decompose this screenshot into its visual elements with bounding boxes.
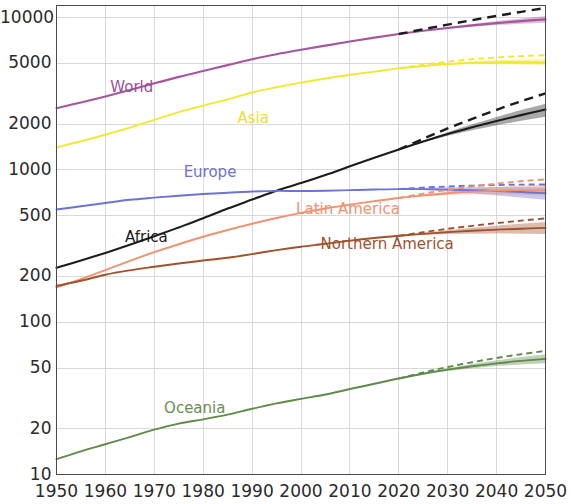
- x-tick-1960: 1960: [78, 481, 132, 501]
- x-tick-2020: 2020: [372, 481, 426, 501]
- dashed-projection-africa: [399, 93, 546, 149]
- y-tick-5000: 5000: [0, 52, 52, 72]
- series-label-africa: Africa: [125, 228, 168, 246]
- x-tick-1970: 1970: [127, 481, 181, 501]
- x-tick-2010: 2010: [323, 481, 377, 501]
- y-tick-1000: 1000: [0, 159, 52, 179]
- y-tick-500: 500: [0, 205, 52, 225]
- x-tick-2050: 2050: [519, 481, 571, 501]
- x-tick-1990: 1990: [225, 481, 279, 501]
- uncertainty-bands: [399, 16, 546, 379]
- y-tick-200: 200: [0, 265, 52, 285]
- series-label-oceania: Oceania: [164, 399, 225, 417]
- series-label-asia: Asia: [237, 109, 268, 127]
- x-tick-1950: 1950: [30, 481, 84, 501]
- y-tick-10000: 10000: [0, 7, 52, 27]
- series-label-latin-america: Latin America: [296, 200, 400, 218]
- series-label-northern-america: Northern America: [321, 235, 454, 253]
- series-label-europe: Europe: [184, 163, 237, 181]
- series-label-world: World: [110, 78, 153, 96]
- x-tick-2030: 2030: [421, 481, 475, 501]
- y-tick-50: 50: [0, 357, 52, 377]
- y-tick-100: 100: [0, 311, 52, 331]
- y-tick-2000: 2000: [0, 113, 52, 133]
- y-tick-20: 20: [0, 418, 52, 438]
- x-tick-2000: 2000: [274, 481, 328, 501]
- x-tick-2040: 2040: [470, 481, 524, 501]
- x-tick-1980: 1980: [176, 481, 230, 501]
